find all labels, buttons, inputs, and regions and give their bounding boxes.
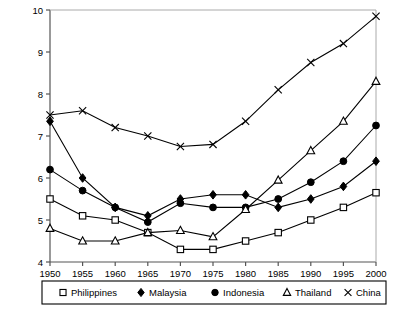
marker-open-square	[47, 196, 53, 202]
marker-filled-circle	[340, 158, 347, 165]
marker-filled-circle	[112, 204, 119, 211]
marker-filled-diamond	[275, 203, 282, 212]
marker-open-square	[340, 204, 346, 210]
marker-filled-diamond	[210, 191, 217, 200]
marker-cross	[112, 124, 119, 131]
marker-open-square	[308, 217, 314, 223]
series-thailand	[46, 77, 380, 244]
marker-filled-circle	[212, 289, 218, 295]
marker-filled-circle	[144, 219, 151, 226]
x-tick-label: 1990	[300, 268, 321, 279]
marker-cross	[307, 59, 314, 66]
series-line	[50, 81, 376, 241]
marker-cross	[242, 118, 249, 125]
x-tick-label: 1980	[235, 268, 256, 279]
y-tick-label: 8	[38, 89, 43, 100]
marker-open-square	[79, 213, 85, 219]
x-tick-label: 1970	[170, 268, 191, 279]
series-layer	[46, 13, 380, 253]
marker-open-triangle	[46, 224, 54, 231]
y-tick-label: 6	[38, 173, 43, 184]
marker-open-square	[210, 246, 216, 252]
marker-open-square	[275, 229, 281, 235]
chart-legend: PhilippinesMalaysiaIndonesiaThailandChin…	[42, 281, 386, 304]
x-tick-label: 1975	[202, 268, 223, 279]
legend-label: Philippines	[71, 287, 117, 298]
x-tick-label: 1985	[268, 268, 289, 279]
x-tick-label: 2000	[365, 268, 386, 279]
marker-filled-circle	[210, 204, 217, 211]
legend-label: Malaysia	[149, 287, 187, 298]
x-tick-label: 1960	[105, 268, 126, 279]
marker-filled-diamond	[373, 157, 380, 166]
marker-filled-diamond	[340, 182, 347, 191]
x-axis-ticks: 1950195519601965197019751980198519901995…	[39, 262, 386, 279]
chart-container: 45678910 1950195519601965197019751980198…	[0, 0, 395, 309]
marker-open-triangle	[177, 226, 185, 233]
series-line	[50, 16, 376, 146]
x-tick-label: 1955	[72, 268, 93, 279]
marker-filled-circle	[47, 166, 54, 173]
x-tick-label: 1950	[39, 268, 60, 279]
x-tick-label: 1995	[333, 268, 354, 279]
legend-label: Thailand	[295, 287, 331, 298]
marker-open-square	[177, 246, 183, 252]
legend-label: Indonesia	[223, 287, 265, 298]
line-chart: 45678910 1950195519601965197019751980198…	[0, 0, 395, 309]
legend-label: China	[356, 287, 382, 298]
marker-cross	[340, 40, 347, 47]
y-tick-label: 4	[38, 257, 43, 268]
marker-cross	[275, 86, 282, 93]
marker-filled-circle	[79, 187, 86, 194]
marker-open-square	[112, 217, 118, 223]
marker-filled-circle	[275, 196, 282, 203]
marker-open-square	[373, 190, 379, 196]
marker-open-square	[60, 289, 66, 295]
marker-filled-circle	[373, 122, 380, 129]
series-china	[46, 13, 379, 150]
x-tick-label: 1965	[137, 268, 158, 279]
chart-title	[0, 0, 395, 7]
marker-filled-circle	[307, 179, 314, 186]
marker-open-square	[242, 238, 248, 244]
marker-filled-diamond	[242, 191, 249, 200]
marker-open-triangle	[372, 77, 380, 84]
y-tick-label: 5	[38, 215, 43, 226]
y-tick-label: 9	[38, 47, 43, 58]
marker-cross	[144, 132, 151, 139]
marker-filled-circle	[177, 200, 184, 207]
series-indonesia	[47, 122, 380, 225]
marker-filled-diamond	[307, 195, 314, 204]
y-tick-label: 7	[38, 131, 43, 142]
